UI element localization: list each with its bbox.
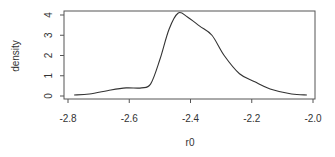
density-curve [74,12,307,95]
y-tick-label: 0 [43,93,54,99]
y-axis-label: density [10,40,21,72]
y-axis: 01234 [43,12,65,99]
y-tick-label: 2 [43,52,54,58]
x-tick-label: -2.2 [243,113,261,124]
x-tick-label: -2.4 [182,113,200,124]
x-tick-label: -2.0 [304,113,322,124]
plot-frame [64,11,315,99]
y-tick-label: 4 [43,12,54,18]
y-tick-label: 1 [43,73,54,79]
x-tick-label: -2.6 [121,113,139,124]
density-plot: 01234 -2.8-2.6-2.4-2.2-2.0 r0 density [0,0,335,157]
y-tick-label: 3 [43,32,54,38]
x-axis-label: r0 [186,137,195,148]
x-tick-label: -2.8 [59,113,77,124]
x-axis: -2.8-2.6-2.4-2.2-2.0 [59,99,322,124]
